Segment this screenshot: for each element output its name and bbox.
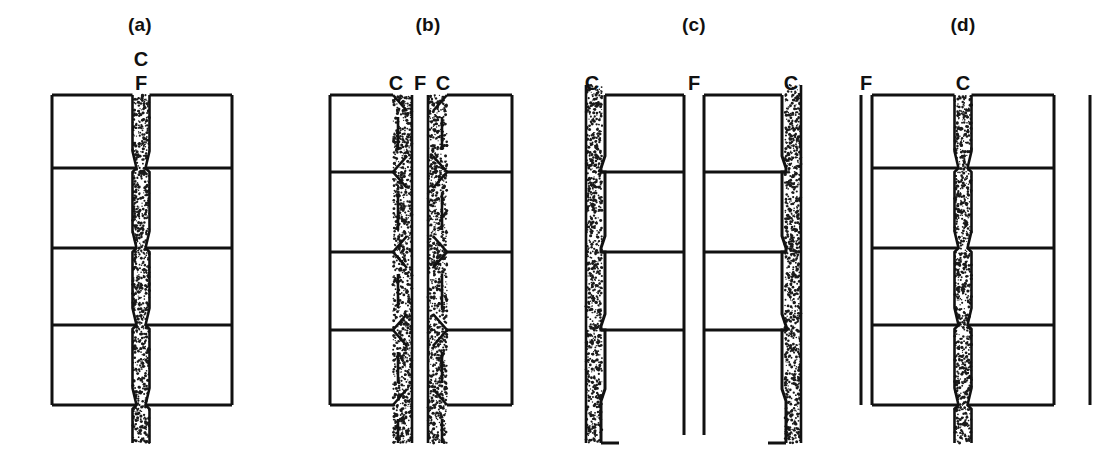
panel-a-label: (a) <box>128 14 152 35</box>
panel-a-label-c: C <box>134 48 148 70</box>
panel-b-label-c-left: C <box>389 72 403 94</box>
figure-background <box>0 0 1115 461</box>
panel-d-label-c: C <box>956 72 970 94</box>
panel-d-label: (d) <box>951 14 976 35</box>
panel-c-label-c-left: C <box>585 72 599 94</box>
panel-c-label-f: F <box>688 72 700 94</box>
panel-c-label: (c) <box>682 14 706 35</box>
figure-svg: (a) C F (b) C F C (c) C F C (d) F <box>0 0 1115 461</box>
panel-c-label-c-right: C <box>784 72 798 94</box>
panel-a-label-f: F <box>135 72 147 94</box>
panel-d-label-f: F <box>860 72 872 94</box>
panel-b-label-c-right: C <box>436 72 450 94</box>
panel-b-label-f: F <box>414 72 426 94</box>
panel-b-label: (b) <box>416 14 441 35</box>
figure-container: (a) C F (b) C F C (c) C F C (d) F <box>0 0 1115 461</box>
